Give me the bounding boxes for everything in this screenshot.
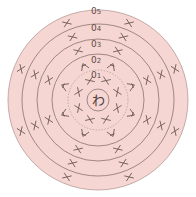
magic-ring-label: わ [92,93,105,108]
round-label-2: 02 [91,55,101,65]
round-label-4: 04 [91,23,102,33]
round-label-5: 05 [91,6,101,16]
round-label-3: 03 [91,39,101,49]
crochet-chart: 05 04 03 02 01 わ [0,0,196,197]
round-label-1: 01 [91,70,101,80]
